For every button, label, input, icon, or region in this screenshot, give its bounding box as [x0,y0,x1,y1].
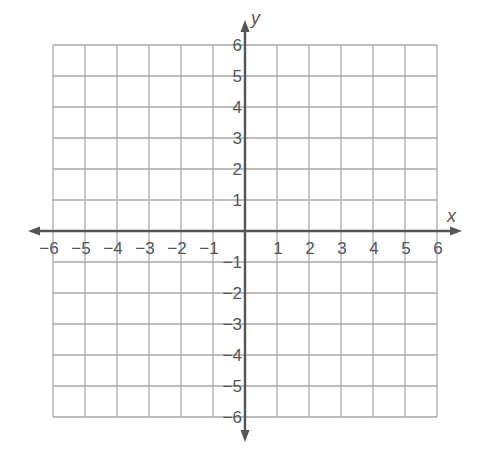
y-axis-down-arrow-icon [241,430,250,442]
y-axis-label: y [249,8,261,28]
x-tick-label: 2 [305,239,314,258]
x-axis-left-arrow-icon [28,227,40,236]
x-tick-label: −5 [71,239,90,258]
x-tick-label: −2 [167,239,186,258]
x-tick-label: −1 [199,239,218,258]
y-tick-label: 3 [233,129,242,148]
y-tick-label: −2 [223,284,242,303]
y-tick-label: −4 [223,346,242,365]
y-tick-label: 2 [233,160,242,179]
y-tick-label: 4 [233,98,242,117]
x-tick-label: 4 [369,239,378,258]
x-tick-label: −4 [103,239,122,258]
y-tick-label: −6 [223,408,242,427]
x-tick-label: −3 [135,239,154,258]
y-tick-label: −5 [223,377,242,396]
x-axis-label: x [446,206,457,226]
y-tick-label: 1 [233,191,242,210]
x-tick-label: 3 [337,239,346,258]
axes [28,20,462,442]
x-tick-label: 6 [433,239,442,258]
coordinate-plane: −6−5−4−3−2−1123456 −6−5−4−3−2−1123456 x … [0,0,480,462]
y-tick-label: 5 [233,67,242,86]
y-tick-label: 6 [233,36,242,55]
x-tick-label: 1 [273,239,282,258]
x-tick-label: 5 [401,239,410,258]
y-axis-up-arrow-icon [241,20,250,32]
x-tick-label: −6 [39,239,58,258]
y-tick-label: −3 [223,315,242,334]
y-tick-label: −1 [223,253,242,272]
x-axis-right-arrow-icon [450,227,462,236]
